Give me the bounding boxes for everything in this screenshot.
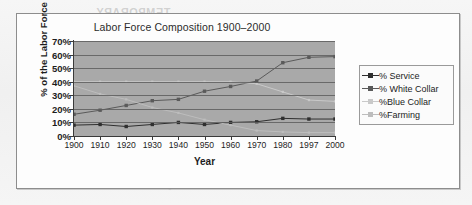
x-tick-label: 1940 bbox=[169, 140, 188, 150]
legend-marker-icon bbox=[362, 97, 379, 106]
plot-area bbox=[74, 41, 335, 136]
series-line bbox=[74, 57, 335, 115]
y-tick-mark bbox=[69, 68, 73, 69]
y-tick-mark bbox=[69, 122, 73, 123]
legend-item-4[interactable]: %Farming bbox=[362, 108, 450, 121]
y-tick-mark bbox=[69, 109, 73, 110]
legend-item-3[interactable]: %Blue Collar bbox=[362, 95, 450, 108]
data-point bbox=[307, 56, 310, 59]
gridline bbox=[74, 95, 335, 96]
y-tick-mark bbox=[69, 136, 73, 137]
x-tick-mark bbox=[283, 136, 284, 140]
x-tick-mark bbox=[178, 136, 179, 140]
x-axis-label: Year bbox=[74, 156, 335, 167]
x-tick-label: 1900 bbox=[64, 140, 83, 150]
data-point bbox=[74, 113, 76, 116]
x-tick-label: 1980 bbox=[273, 140, 292, 150]
x-tick-mark bbox=[152, 136, 153, 140]
y-tick-label: 10% bbox=[41, 117, 71, 128]
data-point bbox=[125, 125, 128, 128]
series-2 bbox=[74, 55, 335, 116]
x-tick-label: 1950 bbox=[195, 140, 214, 150]
data-point bbox=[203, 119, 205, 121]
x-tick-mark bbox=[257, 136, 258, 140]
data-point bbox=[177, 98, 180, 101]
gridline bbox=[74, 68, 335, 69]
chart-frame: Labor Force Composition 1900–2000 0%10%2… bbox=[16, 13, 460, 189]
gridline bbox=[74, 82, 335, 83]
x-tick-label: 2000 bbox=[325, 140, 344, 150]
legend-label: % White Collar bbox=[379, 84, 439, 94]
data-point bbox=[307, 117, 310, 120]
legend-item-2[interactable]: % White Collar bbox=[362, 82, 450, 95]
data-point bbox=[177, 112, 179, 114]
data-point bbox=[281, 117, 284, 120]
chart-legend: % Service% White Collar%Blue Collar%Farm… bbox=[359, 65, 454, 125]
y-tick-mark bbox=[69, 82, 73, 83]
legend-marker-icon bbox=[362, 84, 379, 93]
y-tick-mark bbox=[69, 55, 73, 56]
gridline bbox=[74, 41, 335, 42]
gridline bbox=[74, 122, 335, 123]
y-tick-mark bbox=[69, 41, 73, 42]
y-axis-label: % of the Labor Force bbox=[38, 0, 49, 109]
data-point bbox=[125, 98, 127, 100]
y-tick-mark bbox=[69, 95, 73, 96]
x-tick-label: 1960 bbox=[221, 140, 240, 150]
x-tick-mark bbox=[205, 136, 206, 140]
data-point bbox=[74, 123, 76, 126]
gridline bbox=[74, 55, 335, 56]
legend-label: %Farming bbox=[379, 110, 420, 120]
data-point bbox=[334, 132, 335, 134]
data-point bbox=[256, 129, 258, 131]
x-tick-mark bbox=[335, 136, 336, 140]
data-point bbox=[308, 132, 310, 134]
data-point bbox=[333, 117, 335, 120]
y-axis-line bbox=[73, 40, 74, 137]
data-point bbox=[203, 90, 206, 93]
data-point bbox=[151, 99, 154, 102]
plot-wrapper: 0%10%20%30%40%50%60%70% % of the Labor F… bbox=[17, 14, 461, 190]
x-tick-mark bbox=[231, 136, 232, 140]
x-tick-mark bbox=[74, 136, 75, 140]
data-point bbox=[74, 85, 75, 87]
data-point bbox=[308, 99, 310, 101]
x-tick-label: 1920 bbox=[117, 140, 136, 150]
x-tick-label: 1930 bbox=[143, 140, 162, 150]
x-tick-label: 1970 bbox=[247, 140, 266, 150]
x-tick-mark bbox=[126, 136, 127, 140]
data-point bbox=[230, 124, 232, 126]
legend-item-1[interactable]: % Service bbox=[362, 69, 450, 82]
data-point bbox=[125, 104, 128, 107]
legend-label: % Service bbox=[379, 71, 420, 81]
x-axis-ticks: 1900191019201930194019501960197019801997… bbox=[74, 140, 335, 154]
legend-marker-icon bbox=[362, 71, 379, 80]
x-tick-label: 1997 bbox=[299, 140, 318, 150]
data-point bbox=[282, 91, 284, 93]
legend-label: %Blue Collar bbox=[379, 97, 431, 107]
data-point bbox=[229, 85, 232, 88]
data-point bbox=[334, 100, 335, 102]
data-point bbox=[256, 83, 258, 85]
data-point bbox=[282, 131, 284, 133]
x-tick-label: 1910 bbox=[91, 140, 110, 150]
data-point bbox=[281, 61, 284, 64]
legend-marker-icon bbox=[362, 110, 379, 119]
x-tick-mark bbox=[309, 136, 310, 140]
x-tick-mark bbox=[100, 136, 101, 140]
gridline bbox=[74, 109, 335, 110]
